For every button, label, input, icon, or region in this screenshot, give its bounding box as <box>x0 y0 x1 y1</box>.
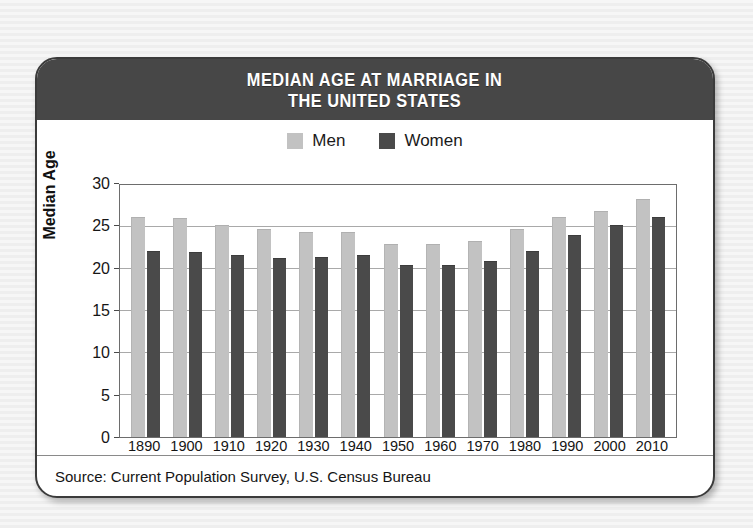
bar-group <box>124 185 166 437</box>
bar-group <box>250 185 292 437</box>
bar-men-1970 <box>468 241 482 437</box>
bar-men-2010 <box>636 199 650 437</box>
bar-group <box>503 185 545 437</box>
bar-men-1940 <box>341 232 355 437</box>
bar-men-1980 <box>510 229 524 437</box>
chart-title-line-2: THE UNITED STATES <box>247 90 503 111</box>
source-note: Source: Current Population Survey, U.S. … <box>37 455 713 496</box>
bar-women-1940 <box>357 255 370 437</box>
bar-women-1930 <box>315 257 328 437</box>
bar-women-1920 <box>273 258 286 437</box>
bar-group <box>588 185 630 437</box>
bar-group <box>546 185 588 437</box>
bar-group <box>461 185 503 437</box>
bar-women-1950 <box>400 265 413 437</box>
y-axis-tick-mark <box>114 310 119 311</box>
y-axis-tick-label: 15 <box>92 302 110 320</box>
bar-women-1960 <box>442 265 455 437</box>
legend-item-men: Men <box>287 131 345 151</box>
bar-women-2000 <box>610 225 623 437</box>
y-axis-tick-label: 30 <box>92 175 110 193</box>
bar-women-2010 <box>652 217 665 437</box>
bar-men-1930 <box>299 232 313 437</box>
y-axis-tick-mark <box>114 352 119 353</box>
bar-men-1960 <box>426 244 440 437</box>
bar-men-1920 <box>257 229 271 437</box>
bar-men-1910 <box>215 225 229 437</box>
bar-group <box>419 185 461 437</box>
bar-women-1980 <box>526 251 539 437</box>
y-axis-tick-mark <box>114 268 119 269</box>
bar-group <box>377 185 419 437</box>
bar-women-1910 <box>231 255 244 437</box>
bar-men-1900 <box>173 218 187 437</box>
bar-men-1890 <box>131 217 145 437</box>
bar-women-1990 <box>568 235 581 437</box>
bar-women-1970 <box>484 261 497 437</box>
bar-series-container <box>120 185 676 437</box>
plot-box <box>119 184 677 438</box>
legend-label-men: Men <box>312 131 345 151</box>
y-axis-tick-label: 10 <box>92 344 110 362</box>
bar-women-1900 <box>189 252 202 437</box>
plot-frame: 051015202530 <box>119 184 677 438</box>
legend-swatch-men-icon <box>287 133 303 149</box>
bar-group <box>630 185 672 437</box>
legend-item-women: Women <box>379 131 462 151</box>
y-axis-tick-mark <box>114 183 119 184</box>
source-note-text: Source: Current Population Survey, U.S. … <box>37 468 431 485</box>
chart-plot-area: Median Age 051015202530 1890190019101920… <box>37 159 713 459</box>
bar-group <box>166 185 208 437</box>
bar-group <box>293 185 335 437</box>
bar-men-2000 <box>594 211 608 437</box>
y-axis-tick-mark <box>114 395 119 396</box>
chart-legend: Men Women <box>37 123 713 159</box>
chart-title: MEDIAN AGE AT MARRIAGE IN THE UNITED STA… <box>247 69 503 111</box>
y-axis-tick-label: 20 <box>92 260 110 278</box>
y-axis-tick-mark <box>114 225 119 226</box>
y-axis-label: Median Age <box>41 135 59 255</box>
bar-men-1950 <box>384 244 398 437</box>
bar-women-1890 <box>147 251 160 437</box>
legend-swatch-women-icon <box>379 133 395 149</box>
legend-label-women: Women <box>404 131 462 151</box>
bar-group <box>335 185 377 437</box>
y-axis-tick-label: 25 <box>92 217 110 235</box>
chart-header-band: MEDIAN AGE AT MARRIAGE IN THE UNITED STA… <box>37 59 713 120</box>
y-axis-tick-label: 5 <box>101 387 110 405</box>
bar-men-1990 <box>552 217 566 437</box>
chart-card: MEDIAN AGE AT MARRIAGE IN THE UNITED STA… <box>35 57 715 498</box>
chart-title-line-1: MEDIAN AGE AT MARRIAGE IN <box>247 69 503 90</box>
y-axis-tick-label: 0 <box>101 429 110 447</box>
bar-group <box>208 185 250 437</box>
